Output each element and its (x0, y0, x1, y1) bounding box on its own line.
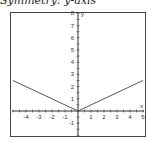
x-tick-label: 3 (115, 114, 119, 120)
x-axis-label: x (140, 103, 143, 109)
y-axis-label: y (81, 11, 84, 17)
x-tick-label: 2 (102, 114, 106, 120)
x-tick-label: -1 (62, 114, 68, 120)
y-tick-label: -1 (69, 120, 75, 126)
y-tick-label: 3 (71, 71, 75, 77)
y-tick-label: 2 (71, 84, 75, 90)
x-tick-label: -4 (23, 114, 29, 120)
y-tick-label: 7 (71, 23, 75, 29)
x-tick-label: -3 (36, 114, 42, 120)
y-tick-label: 8 (71, 10, 75, 16)
y-tick-label: 6 (71, 35, 75, 41)
x-tick-label: 1 (89, 114, 93, 120)
y-tick-label: 5 (71, 47, 75, 53)
y-tick-label: 4 (71, 59, 75, 65)
y-tick-label: 1 (71, 96, 75, 102)
x-tick-label: 4 (128, 114, 132, 120)
x-tick-label: -2 (49, 114, 55, 120)
axes: -4-3-2-112345-112345678yx (12, 10, 145, 135)
graph: -4-3-2-112345-112345678yx (0, 0, 148, 142)
x-tick-label: 5 (141, 114, 145, 120)
